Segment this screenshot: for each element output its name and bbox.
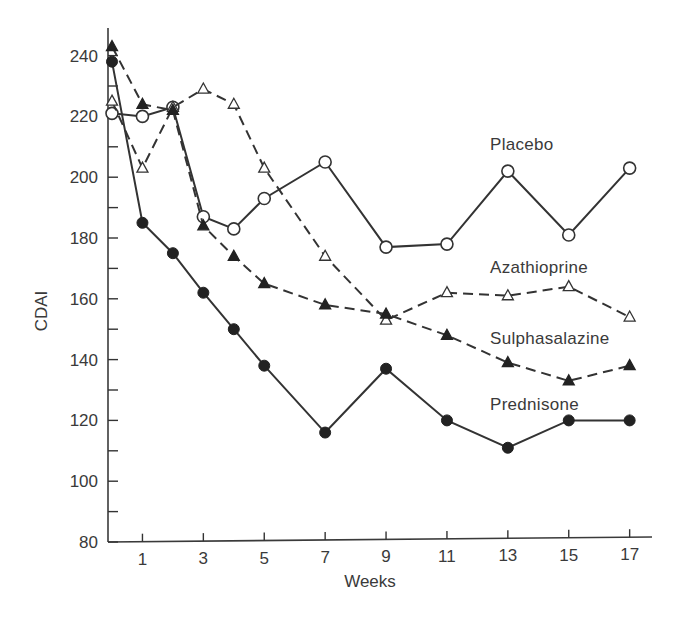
- filled-circle-marker: [137, 217, 148, 228]
- open-triangle-marker: [137, 162, 148, 172]
- y-tick-label: 220: [70, 107, 98, 126]
- series-azathioprine: [107, 83, 636, 324]
- y-tick-label: 140: [70, 351, 98, 370]
- filled-triangle-marker: [624, 360, 635, 370]
- open-triangle-marker: [320, 250, 331, 260]
- filled-triangle-marker: [228, 250, 239, 260]
- y-axis-title: CDAI: [32, 291, 51, 332]
- y-tick-label: 240: [70, 47, 98, 66]
- x-tick-label: 17: [620, 545, 639, 564]
- solid-line: [112, 62, 630, 448]
- filled-circle-marker: [381, 363, 392, 374]
- x-tick-label: 5: [260, 549, 269, 568]
- cdai-line-chart: 80100120140160180200220240 1357911131517…: [0, 0, 678, 620]
- x-tick-label: 15: [559, 546, 578, 565]
- label-sulphasalazine: Sulphasalazine: [490, 329, 610, 348]
- open-triangle-marker: [441, 287, 452, 297]
- filled-triangle-marker: [137, 98, 148, 108]
- dashed-line: [112, 89, 630, 320]
- series-prednisone: [107, 56, 636, 453]
- open-triangle-marker: [624, 311, 635, 321]
- filled-circle-marker: [167, 248, 178, 259]
- open-circle-marker: [563, 229, 575, 241]
- open-circle-marker: [502, 165, 514, 177]
- y-tick-label: 120: [70, 411, 98, 430]
- series-placebo: [106, 101, 636, 253]
- x-axis: [108, 537, 652, 542]
- x-axis-title: Weeks: [344, 572, 396, 591]
- x-tick-label: 3: [199, 549, 208, 568]
- open-triangle-marker: [259, 162, 270, 172]
- open-circle-marker: [136, 110, 148, 122]
- x-tick-label: 9: [381, 547, 390, 566]
- open-circle-marker: [380, 241, 392, 253]
- label-placebo: Placebo: [490, 135, 554, 154]
- filled-circle-marker: [259, 360, 270, 371]
- x-ticks: 1357911131517: [138, 529, 639, 568]
- open-triangle-marker: [228, 98, 239, 108]
- filled-circle-marker: [563, 415, 574, 426]
- open-circle-marker: [258, 192, 270, 204]
- label-azathioprine: Azathioprine: [490, 258, 588, 277]
- x-tick-label: 13: [498, 546, 517, 565]
- filled-circle-marker: [502, 442, 513, 453]
- y-tick-label: 80: [79, 533, 98, 552]
- y-tick-label: 100: [70, 472, 98, 491]
- x-tick-label: 1: [138, 550, 147, 569]
- y-tick-label: 200: [70, 168, 98, 187]
- filled-circle-marker: [228, 324, 239, 335]
- open-circle-marker: [319, 156, 331, 168]
- open-circle-marker: [624, 162, 636, 174]
- filled-circle-marker: [107, 56, 118, 67]
- filled-circle-marker: [320, 427, 331, 438]
- open-circle-marker: [228, 223, 240, 235]
- label-prednisone: Prednisone: [490, 395, 579, 414]
- filled-circle-marker: [198, 287, 209, 298]
- filled-circle-marker: [624, 415, 635, 426]
- x-tick-label: 7: [320, 548, 329, 567]
- filled-circle-marker: [441, 415, 452, 426]
- y-tick-label: 180: [70, 229, 98, 248]
- open-triangle-marker: [198, 83, 209, 93]
- y-ticks: 80100120140160180200220240: [70, 47, 118, 552]
- open-triangle-marker: [563, 281, 574, 291]
- x-tick-label: 11: [438, 547, 456, 566]
- series-layer: [106, 40, 636, 453]
- open-circle-marker: [441, 238, 453, 250]
- y-tick-label: 160: [70, 290, 98, 309]
